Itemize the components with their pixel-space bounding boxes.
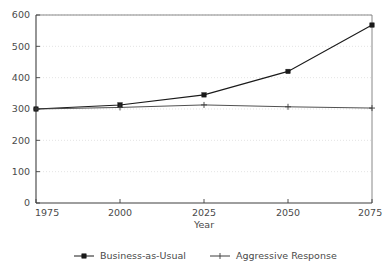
x-axis-title: Year <box>193 219 214 230</box>
y-tick-label: 500 <box>12 41 30 52</box>
x-tick-label: 1975 <box>35 207 59 218</box>
y-tick-label: 300 <box>12 103 30 114</box>
chart-figure: 0100200300400500600 19752000202520502075… <box>0 0 389 271</box>
square-marker-icon <box>202 93 206 97</box>
y-tick-label: 100 <box>12 166 30 177</box>
x-tick-label: 2050 <box>276 207 300 218</box>
y-tick-label: 0 <box>24 197 30 208</box>
y-tick-label: 400 <box>12 72 30 83</box>
square-marker-icon <box>82 254 86 258</box>
x-tick-label: 2000 <box>108 207 132 218</box>
legend-label: Business-as-Usual <box>100 250 186 261</box>
x-tick-label: 2025 <box>192 207 216 218</box>
square-marker-icon <box>286 69 290 73</box>
chart-background <box>0 0 389 271</box>
y-tick-label: 600 <box>12 9 30 20</box>
y-tick-label: 200 <box>12 135 30 146</box>
x-tick-label: 2075 <box>358 207 382 218</box>
line-chart: 0100200300400500600 19752000202520502075… <box>0 0 389 271</box>
legend-label: Aggressive Response <box>236 250 337 261</box>
square-marker-icon <box>370 23 374 27</box>
